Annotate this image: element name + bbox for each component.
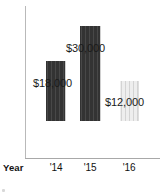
bar-2015	[80, 26, 100, 121]
plot-area	[0, 0, 167, 159]
axis-title-year: Year	[3, 162, 23, 173]
value-label-2016: $12,000	[105, 96, 144, 108]
tick-label-2014: '14	[44, 162, 68, 173]
bar-chart: $18,000 $30,000 $12,000 Year '14 '15 '16	[0, 0, 167, 196]
tick-label-2016: '16	[117, 162, 141, 173]
bar-2014	[46, 61, 65, 121]
tick-label-2015: '15	[78, 162, 102, 173]
scan-artifact-speck	[2, 189, 5, 192]
value-label-2015: $30,000	[66, 42, 105, 54]
value-label-2014: $18,000	[33, 77, 72, 89]
